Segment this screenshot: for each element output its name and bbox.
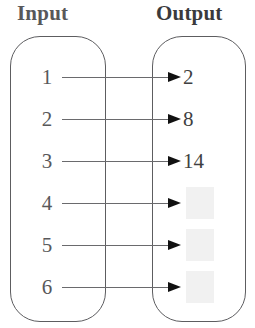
input-value: 6 [30,272,64,302]
input-value: 3 [30,146,64,176]
arrow-right-icon [168,282,181,292]
arrow-right-icon [168,240,181,250]
input-value: 4 [30,188,64,218]
connector-line [62,119,172,120]
arrow-right-icon [168,72,181,82]
connector-line [62,203,172,204]
function-machine-diagram: Input Output 1228314456 [0,0,255,328]
input-value: 2 [30,104,64,134]
connector-line [62,245,172,246]
connector-line [62,287,172,288]
arrow-right-icon [168,114,181,124]
output-answer-field[interactable] [186,187,214,219]
input-column-title: Input [17,3,68,24]
input-value: 1 [30,62,64,92]
output-column-title: Output [156,3,223,24]
input-value: 5 [30,230,64,260]
output-answer-field[interactable] [186,229,214,261]
output-value: 8 [183,104,223,134]
arrow-right-icon [168,156,181,166]
connector-line [62,161,172,162]
arrow-right-icon [168,198,181,208]
output-value: 14 [183,146,223,176]
connector-line [62,77,172,78]
output-value: 2 [183,62,223,92]
output-answer-field[interactable] [186,271,214,303]
